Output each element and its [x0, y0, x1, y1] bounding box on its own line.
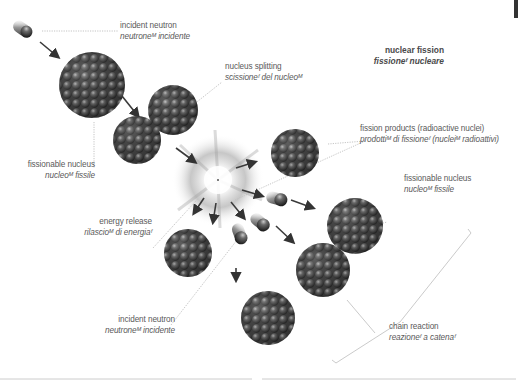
label-energy-release: energy release rilascioᴹ di energiaᶠ: [84, 217, 152, 238]
diagram-title: nuclear fission fissioneᶠ nucleare: [374, 45, 444, 66]
label-nucleus-splitting: nucleus splitting scissioneᶠ del nucleoᴹ: [225, 62, 302, 83]
nucleus-incident: [59, 52, 125, 118]
title-english: nuclear fission: [374, 45, 444, 56]
energy-burst-icon: [172, 130, 264, 228]
label-incident-neutron-bottom: incident neutron neutroneᴹ incidente: [105, 315, 175, 336]
label-fissionable-nucleus-left: fissionable nucleus nucleoᴹ fissile: [28, 160, 95, 181]
fission-product-upper: [271, 129, 319, 177]
nuclear-fission-diagram: nuclear fission fissioneᶠ nucleare incid…: [0, 0, 532, 387]
label-fissionable-nucleus-right: fissionable nucleus nucleoᴹ fissile: [404, 174, 471, 195]
title-italian: fissioneᶠ nucleare: [374, 56, 444, 67]
label-fission-products: fission products (radioactive nuclei) pr…: [360, 124, 499, 145]
fissionable-nucleus-right: [327, 198, 383, 254]
fission-product-lower: [164, 229, 212, 277]
nucleus-splitting-lower: [113, 116, 161, 164]
fissionable-nucleus-middle: [296, 243, 350, 297]
fissionable-nucleus-bottom: [241, 291, 295, 345]
page-tab-marker: [514, 0, 518, 18]
label-chain-reaction: chain reaction reazioneᶠ a catenaᶠ: [389, 322, 456, 343]
label-incident-neutron-top: incident neutron neutroneᴹ incidente: [120, 21, 190, 42]
